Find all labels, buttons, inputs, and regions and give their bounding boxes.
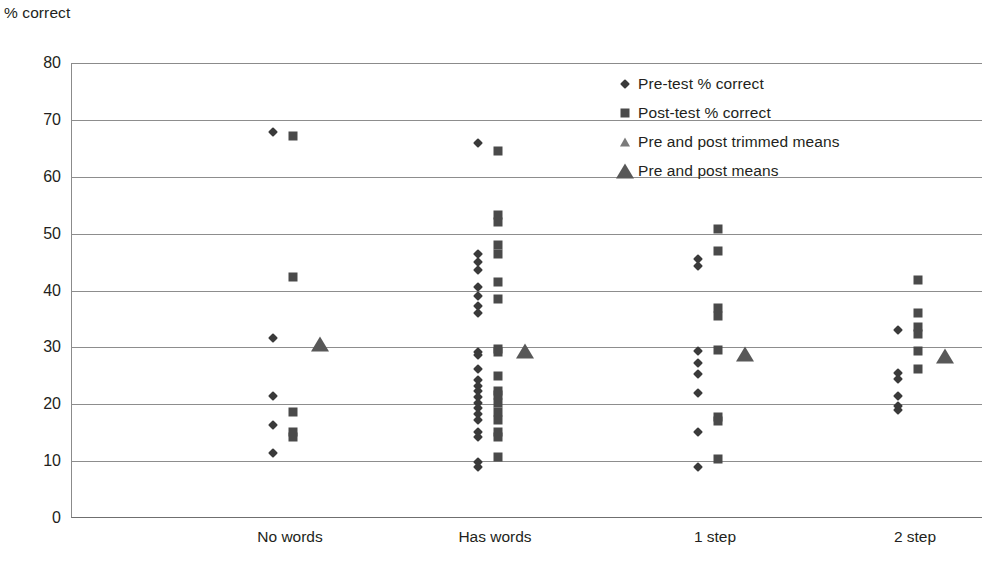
marker-glyph <box>620 79 630 89</box>
data-point-square-small <box>289 433 298 442</box>
legend-item[interactable]: Pre and post means <box>612 156 912 185</box>
y-axis-tick-label: 0 <box>5 509 61 527</box>
data-point-square-small <box>714 311 723 320</box>
gridline <box>71 461 982 462</box>
x-axis-tick-label: Has words <box>458 528 531 546</box>
data-point-square-small <box>494 277 503 286</box>
legend-item[interactable]: Pre and post trimmed means <box>612 127 912 156</box>
data-point-triangle-large <box>516 343 534 358</box>
x-axis-tick-label: No words <box>257 528 322 546</box>
data-point-square-small <box>494 146 503 155</box>
marker-glyph <box>616 163 634 178</box>
marker-glyph <box>620 137 630 146</box>
data-point-square-small <box>714 345 723 354</box>
y-axis-tick-label: 60 <box>5 168 61 186</box>
marker-glyph <box>621 108 630 117</box>
legend-item[interactable]: Post-test % correct <box>612 98 912 127</box>
y-axis-title: % correct <box>4 4 70 22</box>
y-axis-tick-label: 30 <box>5 338 61 356</box>
legend-label: Pre and post means <box>638 162 779 180</box>
data-point-square-small <box>289 131 298 140</box>
legend-marker-triangle-large-icon <box>612 161 638 181</box>
data-point-square-small <box>714 417 723 426</box>
data-point-square-small <box>494 218 503 227</box>
y-axis-tick-label: 10 <box>5 452 61 470</box>
data-point-square-small <box>714 225 723 234</box>
legend-label: Pre and post trimmed means <box>638 133 840 151</box>
y-axis-tick-label: 80 <box>5 54 61 72</box>
gridline <box>71 404 982 405</box>
legend-marker-diamond-small-icon <box>612 74 638 94</box>
y-axis-tick-label: 70 <box>5 111 61 129</box>
data-point-square-small <box>914 347 923 356</box>
data-point-square-small <box>494 432 503 441</box>
data-point-triangle-large <box>936 348 954 363</box>
data-point-square-small <box>494 371 503 380</box>
data-point-square-small <box>289 407 298 416</box>
y-axis-tick-label: 20 <box>5 395 61 413</box>
legend-marker-square-small-icon <box>612 103 638 123</box>
chart-legend: Pre-test % correctPost-test % correctPre… <box>612 69 912 185</box>
data-point-square-small <box>494 241 503 250</box>
y-axis-tick-label: 50 <box>5 225 61 243</box>
data-point-square-small <box>494 295 503 304</box>
data-point-square-small <box>714 454 723 463</box>
data-point-square-small <box>494 347 503 356</box>
y-axis-tick-label: 40 <box>5 282 61 300</box>
data-point-square-small <box>494 399 503 408</box>
data-point-square-small <box>494 250 503 259</box>
data-point-square-small <box>494 453 503 462</box>
data-point-triangle-large <box>311 336 329 351</box>
data-point-triangle-large <box>736 346 754 361</box>
legend-marker-triangle-small-icon <box>612 132 638 152</box>
x-axis-tick-label: 1 step <box>694 528 736 546</box>
legend-label: Pre-test % correct <box>638 75 764 93</box>
data-point-square-small <box>714 246 723 255</box>
gridline <box>71 291 982 292</box>
data-point-square-small <box>494 416 503 425</box>
data-point-square-small <box>289 273 298 282</box>
data-point-square-small <box>914 364 923 373</box>
x-axis-tick-label: 2 step <box>894 528 936 546</box>
legend-label: Post-test % correct <box>638 104 771 122</box>
data-point-square-small <box>914 309 923 318</box>
gridline <box>71 234 982 235</box>
scatter-chart: % correct 80706050403020100 No wordsHas … <box>0 0 985 567</box>
data-point-square-small <box>914 276 923 285</box>
legend-item[interactable]: Pre-test % correct <box>612 69 912 98</box>
data-point-square-small <box>914 330 923 339</box>
